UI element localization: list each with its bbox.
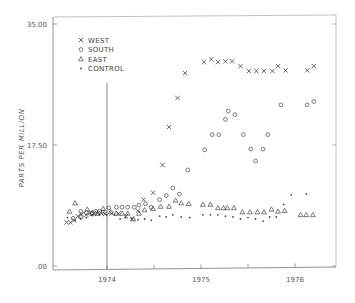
data-point — [254, 159, 258, 163]
legend-label: SOUTH — [88, 46, 114, 54]
data-point — [262, 69, 266, 73]
legend-label: CONTROL — [88, 65, 124, 73]
data-point — [249, 147, 253, 151]
data-point — [132, 205, 136, 209]
data-point — [74, 219, 76, 221]
data-point — [186, 201, 191, 205]
data-point — [180, 216, 182, 218]
data-point — [159, 215, 161, 217]
x-tick-label: 1974 — [98, 276, 116, 284]
data-point — [269, 216, 271, 218]
legend-marker-icon — [80, 68, 82, 70]
data-point — [262, 210, 267, 214]
data-point — [305, 103, 309, 107]
legend: WESTSOUTHEASTCONTROL — [79, 37, 125, 74]
scatter-chart: .0017.5035.00 197419751976 PARTS PER MIL… — [0, 0, 355, 303]
data-point — [160, 163, 164, 167]
data-point — [282, 208, 287, 212]
data-point — [224, 118, 228, 122]
legend-item-west: WEST — [79, 37, 110, 45]
data-point — [238, 64, 242, 68]
data-point — [171, 186, 175, 190]
data-point — [276, 209, 281, 213]
data-point — [158, 198, 162, 202]
data-point — [310, 212, 315, 216]
data-point — [305, 193, 307, 195]
legend-marker — [80, 68, 82, 70]
data-point — [85, 207, 90, 211]
series-south — [71, 100, 315, 221]
top-border — [53, 15, 336, 17]
y-axis-ticks: .0017.5035.00 — [27, 21, 336, 271]
data-point — [241, 133, 245, 137]
series-east — [67, 198, 315, 221]
data-point — [266, 133, 270, 137]
y-tick-label: 35.00 — [27, 21, 47, 29]
data-point — [283, 68, 287, 72]
data-point — [312, 100, 316, 104]
legend-marker-icon — [79, 57, 84, 61]
data-point — [247, 217, 249, 219]
data-point — [247, 210, 252, 214]
data-point — [167, 204, 172, 208]
data-point — [202, 60, 206, 64]
data-point — [172, 214, 174, 216]
data-point — [173, 198, 178, 202]
data-points — [64, 57, 316, 225]
x-axis-ticks: 197419751976 — [98, 263, 304, 284]
data-point — [232, 206, 237, 210]
data-point — [210, 133, 214, 137]
data-point — [144, 218, 146, 220]
data-point — [67, 209, 72, 213]
data-point — [126, 205, 130, 209]
data-point — [247, 69, 251, 73]
data-point — [141, 197, 145, 201]
data-point — [216, 60, 220, 64]
data-point — [114, 214, 116, 216]
data-point — [262, 220, 264, 222]
series-west — [64, 57, 316, 225]
data-point — [165, 216, 167, 218]
y-tick-label: 17.50 — [27, 142, 47, 150]
data-point — [203, 148, 207, 152]
data-point — [151, 191, 155, 195]
data-point — [216, 206, 221, 210]
data-point — [120, 205, 124, 209]
data-point — [99, 214, 101, 216]
data-point — [275, 216, 277, 218]
data-point — [183, 71, 187, 75]
data-point — [202, 214, 204, 216]
data-point — [217, 133, 221, 137]
legend-marker-icon — [79, 38, 83, 42]
data-point — [225, 206, 230, 210]
x-tick-label: 1975 — [192, 276, 210, 284]
legend-marker — [79, 57, 84, 61]
data-point — [304, 212, 309, 216]
legend-marker — [79, 38, 83, 42]
y-tick-label: .00 — [36, 263, 47, 271]
data-point — [226, 109, 230, 113]
data-point — [64, 220, 68, 224]
data-point — [186, 168, 190, 172]
data-point — [91, 215, 93, 217]
data-point — [85, 217, 87, 219]
legend-label: WEST — [88, 37, 110, 45]
legend-label: EAST — [88, 56, 108, 64]
data-point — [80, 218, 82, 220]
data-point — [179, 201, 184, 205]
y-axis-label: PARTS PER MILLION — [18, 108, 26, 187]
data-point — [125, 217, 127, 219]
data-point — [131, 217, 133, 219]
data-point — [270, 69, 274, 73]
data-point — [67, 217, 69, 219]
x-axis-line — [53, 267, 336, 270]
data-point — [107, 206, 111, 210]
data-point — [269, 207, 274, 211]
data-point — [200, 202, 205, 206]
data-point — [167, 125, 171, 129]
data-point — [115, 205, 119, 209]
data-point — [312, 64, 316, 68]
data-point — [137, 219, 139, 221]
data-point — [232, 216, 234, 218]
data-point — [158, 204, 163, 208]
